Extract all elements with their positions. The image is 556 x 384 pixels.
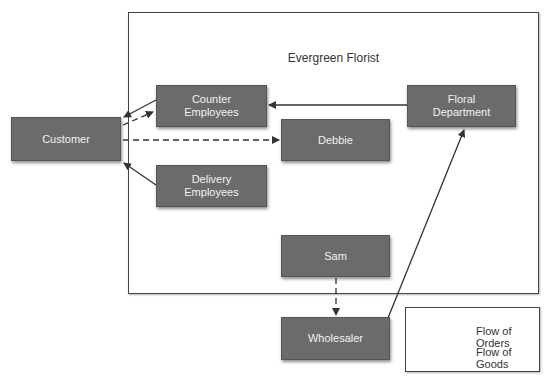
legend-goods-label: Flow of Goods	[476, 346, 539, 370]
node-counter-employees: Counter Employees	[156, 85, 267, 127]
node-sam: Sam	[281, 235, 390, 277]
node-debbie: Debbie	[281, 119, 390, 161]
legend: Flow of Orders Flow of Goods	[405, 307, 540, 372]
node-wholesaler: Wholesaler	[281, 317, 390, 360]
arrow-customer-to-counter	[123, 112, 153, 125]
arrow-wholesaler-to-floral	[388, 130, 464, 318]
node-delivery-employees: Delivery Employees	[156, 165, 267, 207]
arrow-delivery-to-customer	[124, 163, 156, 185]
arrow-counter-to-customer	[124, 100, 156, 117]
node-customer: Customer	[11, 117, 121, 161]
node-floral-department: Floral Department	[407, 85, 516, 127]
